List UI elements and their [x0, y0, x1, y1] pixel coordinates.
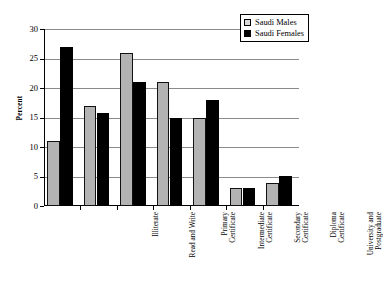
- category-label: Read and Write: [189, 212, 197, 291]
- category-label-line: Illiterate: [152, 212, 160, 291]
- x-tick-mark: [263, 206, 264, 210]
- category-label: IntermediateCertificate: [258, 212, 274, 291]
- bar-male: [47, 141, 60, 206]
- bar-male: [266, 183, 279, 206]
- category-label: University andPostgraduate: [367, 212, 383, 291]
- legend-swatch-male-icon: [244, 19, 251, 26]
- legend: Saudi Males Saudi Females: [240, 14, 309, 42]
- x-tick-mark: [153, 206, 154, 210]
- category-label: PrimaryCertificate: [221, 212, 237, 291]
- bar-female: [170, 118, 183, 207]
- bar-female: [97, 113, 110, 206]
- legend-label-saudi-females: Saudi Females: [255, 29, 304, 38]
- y-tick-label: 20: [16, 84, 38, 93]
- x-tick-mark: [80, 206, 81, 210]
- y-tick-label: 15: [16, 113, 38, 122]
- category-label: SecondaryCertificate: [294, 212, 310, 291]
- y-tick-mark: [40, 206, 44, 207]
- category-label: DiplomaCertificate: [330, 212, 346, 291]
- category-label-line: Certificate: [339, 212, 347, 291]
- legend-swatch-female-icon: [244, 30, 251, 37]
- bar-female: [206, 100, 219, 206]
- bar-male: [157, 82, 170, 206]
- x-tick-mark: [117, 206, 118, 210]
- bar-female: [243, 188, 256, 206]
- legend-item-saudi-females: Saudi Females: [244, 28, 304, 39]
- y-tick-label: 30: [16, 25, 38, 34]
- y-tick-label: 10: [16, 143, 38, 152]
- category-label-line: Certificate: [266, 212, 274, 291]
- x-tick-mark: [190, 206, 191, 210]
- bar-female: [60, 47, 73, 206]
- category-label-line: Certificate: [302, 212, 310, 291]
- category-label-line: Certificate: [229, 212, 237, 291]
- bar-male: [84, 106, 97, 206]
- bar-female: [279, 176, 292, 206]
- category-label: Illiterate: [152, 212, 160, 291]
- bar-male: [193, 118, 206, 207]
- bar-male: [120, 53, 133, 206]
- bar-female: [133, 82, 146, 206]
- category-label-line: Read and Write: [189, 212, 197, 291]
- bar-male: [230, 188, 243, 206]
- bars-layer: [44, 29, 299, 206]
- y-tick-label: 25: [16, 54, 38, 63]
- y-tick-label: 0: [16, 202, 38, 211]
- legend-item-saudi-males: Saudi Males: [244, 17, 304, 28]
- legend-label-saudi-males: Saudi Males: [255, 18, 297, 27]
- x-tick-mark: [226, 206, 227, 210]
- y-tick-label: 5: [16, 172, 38, 181]
- category-label-line: Postgraduate: [375, 212, 383, 291]
